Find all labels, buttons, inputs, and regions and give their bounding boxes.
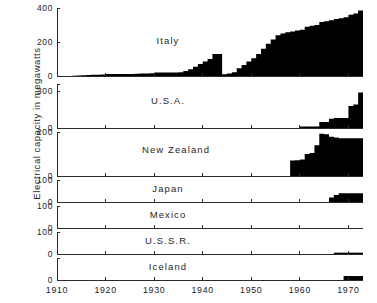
bars-u-s-a <box>300 84 363 128</box>
bars-japan <box>329 193 363 202</box>
x-tick-label: 1950 <box>240 285 262 295</box>
bars-iceland <box>344 276 363 280</box>
multi-panel-bar-chart: 0200400Italy0300U.S.A.0200New Zealand010… <box>0 0 377 303</box>
panels-group: 0200400Italy0300U.S.A.0200New Zealand010… <box>37 3 363 285</box>
y-tick-label: 0 <box>48 275 53 285</box>
panel-axis <box>57 180 363 202</box>
x-tick-label: 1910 <box>46 285 68 295</box>
bars-new-zealand <box>290 134 363 176</box>
y-tick-label: 100 <box>37 227 53 237</box>
x-tick-label: 1940 <box>192 285 214 295</box>
x-tick-label: 1960 <box>289 285 311 295</box>
y-axis-label: Electrical capacity in megawatts <box>31 24 42 224</box>
panel-italy: 0200400Italy <box>37 3 363 81</box>
x-tick-label: 1920 <box>94 285 116 295</box>
panel-label-u-s-s-r: U.S.S.R. <box>145 235 191 246</box>
panel-label-u-s-a: U.S.A. <box>151 95 185 106</box>
panel-mexico: 0100Mexico <box>37 201 363 233</box>
bars-italy <box>72 10 363 76</box>
panel-japan: 0100Japan <box>37 175 363 207</box>
panel-label-new-zealand: New Zealand <box>142 144 210 155</box>
panel-label-italy: Italy <box>157 35 180 46</box>
x-tick-label: 1970 <box>337 285 359 295</box>
y-tick-label: 0 <box>48 249 53 259</box>
x-axis: 1910192019301940195019601970 <box>46 285 360 295</box>
y-tick-label: 400 <box>37 3 53 13</box>
x-tick-label: 1930 <box>143 285 165 295</box>
geothermal-capacity-figure: Electrical capacity in megawatts 0200400… <box>0 0 377 303</box>
panel-u-s-a: 0300U.S.A. <box>37 84 363 133</box>
panel-axis <box>57 232 363 254</box>
panel-u-s-s-r: 0100U.S.S.R. <box>37 227 363 259</box>
panel-label-japan: Japan <box>152 183 183 194</box>
panel-new-zealand: 0200New Zealand <box>37 127 363 181</box>
panel-label-iceland: Iceland <box>149 261 187 272</box>
panel-axis <box>57 206 363 228</box>
panel-iceland: 0Iceland <box>48 258 363 285</box>
panel-axis <box>57 84 363 128</box>
panel-axis <box>57 258 363 280</box>
y-tick-label: 0 <box>48 71 53 81</box>
panel-label-mexico: Mexico <box>150 209 187 220</box>
